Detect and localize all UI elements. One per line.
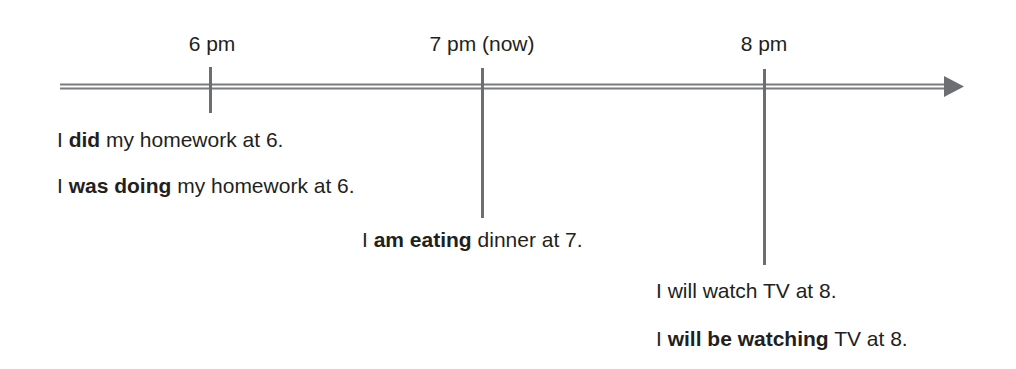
sentence-suffix: TV at 8.	[829, 327, 908, 350]
sentence-verb: am eating	[374, 228, 472, 251]
sentence-prefix: I	[57, 128, 69, 151]
sentence-suffix: my homework at 6.	[171, 174, 354, 197]
tick-label-7pm: 7 pm (now)	[429, 33, 534, 54]
sentence-present-continuous: I am eating dinner at 7.	[362, 229, 583, 250]
sentence-prefix: I will watch TV at 8.	[656, 279, 837, 302]
tick-label-8pm: 8 pm	[741, 33, 788, 54]
tick-label-6pm: 6 pm	[189, 33, 236, 54]
sentence-prefix: I	[362, 228, 374, 251]
sentence-past-simple: I did my homework at 6.	[57, 129, 283, 150]
sentence-prefix: I	[656, 327, 668, 350]
sentence-future-simple: I will watch TV at 8.	[656, 280, 837, 301]
sentence-prefix: I	[57, 174, 69, 197]
sentence-future-continuous: I will be watching TV at 8.	[656, 328, 908, 349]
sentence-verb: did	[69, 128, 101, 151]
sentence-past-continuous: I was doing my homework at 6.	[57, 175, 355, 196]
arrowhead-icon	[944, 76, 964, 97]
sentence-verb: was doing	[69, 174, 172, 197]
sentence-suffix: my homework at 6.	[100, 128, 283, 151]
sentence-verb: will be watching	[668, 327, 829, 350]
sentence-suffix: dinner at 7.	[472, 228, 583, 251]
